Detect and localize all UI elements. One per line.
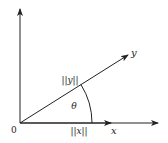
x-norm-label: ||x||: [70, 126, 87, 137]
angle-between-vectors-diagram: 0 x y ||x|| ||y|| θ: [0, 0, 168, 143]
origin-label: 0: [11, 125, 17, 135]
y-vector-label: y: [130, 47, 137, 58]
y-vector: [20, 55, 128, 123]
angle-label: θ: [71, 101, 77, 111]
angle-arc: [81, 84, 92, 123]
y-norm-label: ||y||: [61, 75, 78, 86]
x-vector-label: x: [111, 125, 117, 136]
